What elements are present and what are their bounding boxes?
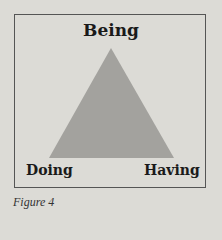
- label-doing: Doing: [26, 162, 73, 178]
- figure-caption: Figure 4: [13, 195, 54, 210]
- label-having: Having: [144, 162, 200, 178]
- label-being: Being: [0, 20, 222, 40]
